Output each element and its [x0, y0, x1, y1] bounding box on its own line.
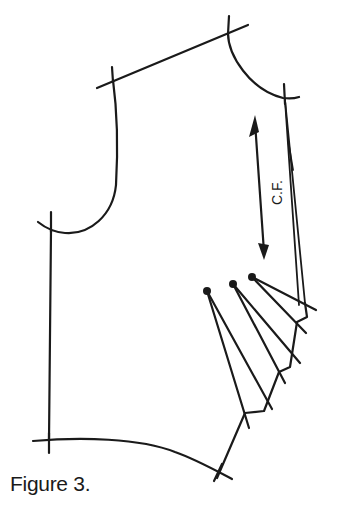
bodice-pattern-drawing: C.F. — [0, 0, 347, 520]
cf-arrow-head-down-icon — [258, 243, 269, 260]
side-seam — [49, 230, 51, 441]
dart-2-leg-b — [233, 284, 285, 383]
center-front-line-inner — [285, 100, 299, 305]
shoulder-tick-right — [228, 16, 229, 34]
center-front-line-outer — [285, 100, 305, 303]
cf-arrow-shaft — [255, 122, 264, 252]
shoulder-line — [97, 25, 248, 88]
cf-arrow-head-up-icon — [249, 115, 259, 137]
armhole-curve — [38, 80, 117, 233]
cf-label: C.F. — [269, 180, 285, 205]
neckline-curve — [228, 33, 299, 98]
dart-1-leg-a — [207, 291, 272, 409]
dart-1-leg-b — [207, 291, 249, 428]
figure-caption: Figure 3. — [10, 472, 90, 496]
